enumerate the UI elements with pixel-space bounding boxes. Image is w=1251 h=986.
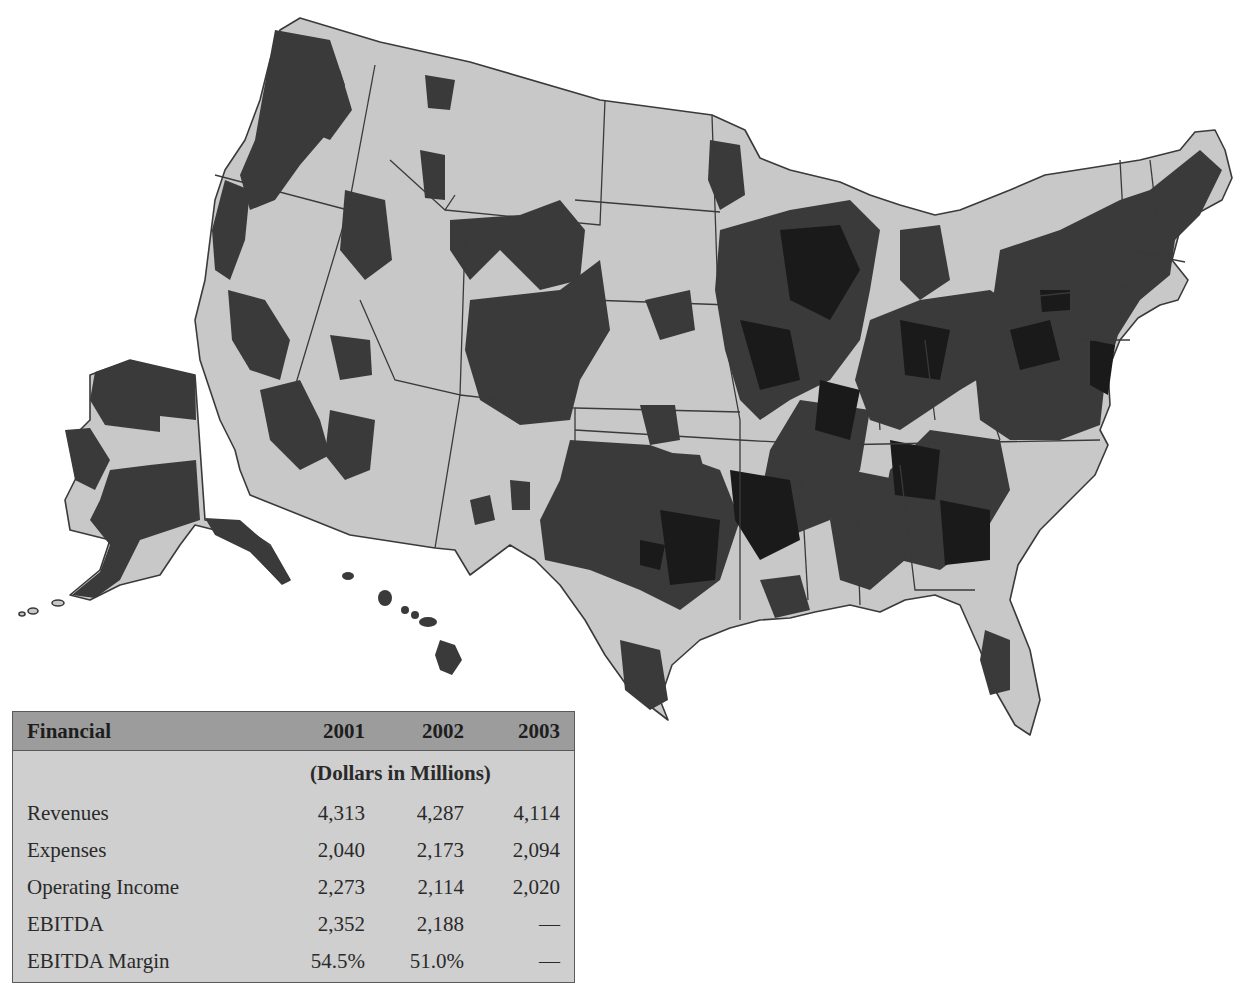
coverage-map: [0, 0, 1251, 760]
cell-2003: —: [464, 949, 560, 974]
cell-2002: 2,114: [365, 875, 464, 900]
row-label: Operating Income: [13, 875, 268, 900]
cell-2001: 2,352: [268, 912, 365, 937]
header-year-2002: 2002: [365, 719, 464, 744]
cell-2001: 4,313: [268, 801, 365, 826]
row-label: Revenues: [13, 801, 268, 826]
cell-2001: 54.5%: [268, 949, 365, 974]
cell-2002: 2,188: [365, 912, 464, 937]
financial-table: Financial 2001 2002 2003 (Dollars in Mil…: [12, 711, 575, 983]
row-label: Expenses: [13, 838, 268, 863]
table-row: Revenues 4,313 4,287 4,114: [13, 795, 574, 832]
cell-2003: 4,114: [464, 801, 560, 826]
header-label: Financial: [13, 719, 268, 744]
cell-2003: —: [464, 912, 560, 937]
table-row: Operating Income 2,273 2,114 2,020: [13, 869, 574, 906]
cell-2002: 51.0%: [365, 949, 464, 974]
cell-2002: 2,173: [365, 838, 464, 863]
hawaii: [342, 572, 462, 675]
row-label: EBITDA Margin: [13, 949, 268, 974]
cell-2003: 2,094: [464, 838, 560, 863]
cell-2002: 4,287: [365, 801, 464, 826]
table-row: EBITDA Margin 54.5% 51.0% —: [13, 943, 574, 980]
cell-2001: 2,273: [268, 875, 365, 900]
header-year-2003: 2003: [464, 719, 560, 744]
header-year-2001: 2001: [268, 719, 365, 744]
table-row: Expenses 2,040 2,173 2,094: [13, 832, 574, 869]
table-header-row: Financial 2001 2002 2003: [13, 712, 574, 751]
cell-2001: 2,040: [268, 838, 365, 863]
table-row: EBITDA 2,352 2,188 —: [13, 906, 574, 943]
row-label: EBITDA: [13, 912, 268, 937]
cell-2003: 2,020: [464, 875, 560, 900]
units-label: (Dollars in Millions): [13, 751, 574, 795]
